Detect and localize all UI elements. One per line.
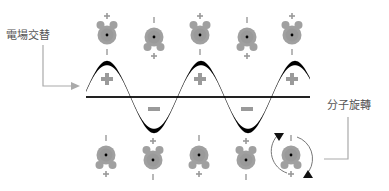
bottom-molecule-row <box>96 135 302 180</box>
hydrogen-atom-left <box>97 21 105 29</box>
molecule-minus-icon <box>153 17 154 23</box>
hydrogen-atom-right <box>294 161 302 169</box>
molecule-minus-icon <box>152 174 153 180</box>
bottom-molecule-4 <box>236 138 257 180</box>
bottom-molecule-1 <box>96 135 117 177</box>
molecule-minus-icon <box>291 49 292 55</box>
hydrogen-atom-left <box>281 161 289 169</box>
hydrogen-atom-left <box>237 43 245 51</box>
hydrogen-atom-left <box>190 21 198 29</box>
molecule-center-dot <box>153 36 156 39</box>
molecular-rotation-label: 分子旋轉 <box>327 98 371 112</box>
rotation-arrow-top-icon <box>274 133 284 141</box>
molecule-center-dot <box>199 34 202 37</box>
hydrogen-atom-right <box>202 161 210 169</box>
hydrogen-atom-left <box>96 161 104 169</box>
molecule-center-dot <box>106 34 109 37</box>
top-molecule-4 <box>237 17 258 59</box>
molecule-center-dot <box>290 154 293 157</box>
molecule-minus-icon <box>245 174 246 180</box>
molecule-plus-icon-vertical <box>153 53 155 59</box>
wave-polarity-signs <box>101 73 298 111</box>
top-molecule-1 <box>97 13 118 55</box>
top-molecule-3 <box>190 13 211 55</box>
microwave-dipole-rotation-diagram: 電場交替 分子旋轉 <box>0 0 389 191</box>
minus-sign-icon <box>148 107 160 111</box>
bottom-molecule-3 <box>189 135 210 177</box>
hydrogen-atom-left <box>144 43 152 51</box>
alternating-field-leader-line <box>43 45 72 86</box>
hydrogen-atom-right <box>295 21 303 29</box>
molecular-rotation-leader-line <box>324 117 348 159</box>
molecule-minus-icon <box>246 17 247 23</box>
hydrogen-atom-left <box>143 146 151 154</box>
plus-sign-icon-vertical <box>290 73 294 85</box>
molecule-plus-icon-vertical <box>290 171 292 177</box>
hydrogen-atom-left <box>189 161 197 169</box>
hydrogen-atom-left <box>236 146 244 154</box>
molecule-plus-icon-vertical <box>198 171 200 177</box>
molecule-center-dot <box>246 36 249 39</box>
rotation-arrow-bottom-icon <box>303 170 313 178</box>
bottom-molecule-2 <box>143 138 164 180</box>
molecule-plus-icon-vertical <box>152 138 154 144</box>
bottom-molecule-5 <box>281 135 302 177</box>
molecule-plus-icon-vertical <box>106 13 108 19</box>
hydrogen-atom-right <box>249 146 257 154</box>
molecule-plus-icon-vertical <box>246 53 248 59</box>
top-molecule-row <box>97 13 303 59</box>
alternating-field-label: 電場交替 <box>6 28 50 42</box>
molecule-plus-icon-vertical <box>199 13 201 19</box>
plus-sign-icon-vertical <box>198 73 202 85</box>
molecule-minus-icon <box>290 135 291 141</box>
hydrogen-atom-left <box>282 21 290 29</box>
molecule-center-dot <box>245 159 248 162</box>
hydrogen-atom-right <box>250 43 258 51</box>
molecule-center-dot <box>198 154 201 157</box>
molecule-minus-icon <box>105 135 106 141</box>
molecule-minus-icon <box>198 135 199 141</box>
alternating-field-arrow-icon <box>71 82 80 90</box>
minus-sign-icon <box>241 107 253 111</box>
molecule-minus-icon <box>106 49 107 55</box>
hydrogen-atom-right <box>203 21 211 29</box>
molecule-plus-icon-vertical <box>105 171 107 177</box>
molecule-center-dot <box>152 159 155 162</box>
molecule-plus-icon-vertical <box>245 138 247 144</box>
hydrogen-atom-right <box>156 146 164 154</box>
top-molecule-2 <box>144 17 165 59</box>
plus-sign-icon-vertical <box>105 73 109 85</box>
molecule-center-dot <box>105 154 108 157</box>
molecule-minus-icon <box>199 49 200 55</box>
hydrogen-atom-right <box>157 43 165 51</box>
hydrogen-atom-right <box>109 161 117 169</box>
top-molecule-5 <box>282 13 303 55</box>
hydrogen-atom-right <box>110 21 118 29</box>
molecule-plus-icon-vertical <box>291 13 293 19</box>
molecule-center-dot <box>291 34 294 37</box>
